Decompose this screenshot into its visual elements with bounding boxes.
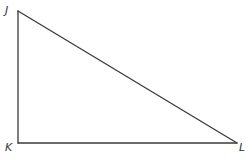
side-jl (18, 11, 237, 143)
triangle-diagram: J K L (0, 0, 252, 160)
vertex-label-j: J (3, 4, 8, 17)
vertex-label-k: K (5, 141, 13, 154)
vertex-label-l: L (239, 141, 245, 154)
